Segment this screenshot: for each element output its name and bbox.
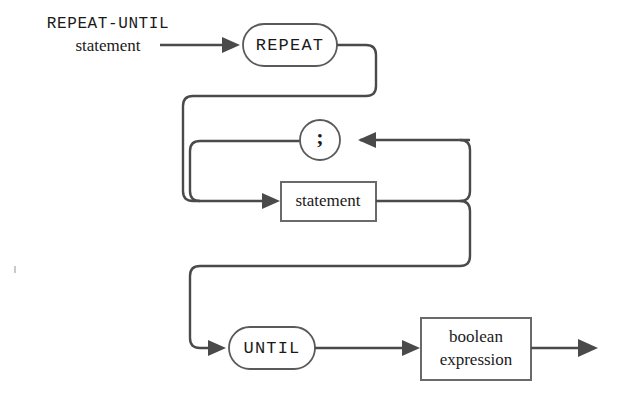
railroad-canvas: REPEAT ; statement UNTIL boolean express… [0, 0, 622, 404]
statement-up-branch-line [460, 140, 470, 201]
semicolon-terminal-label: ; [316, 124, 323, 149]
semicolon-return-arrow-icon [358, 132, 376, 148]
repeat-to-loop-line [183, 45, 376, 201]
boolean-expression-label-line-2: expression [440, 350, 513, 369]
repeat-until-syntax-diagram: REPEAT-UNTIL statement REPEAT ; statemen… [0, 0, 622, 404]
repeat-terminal-label: REPEAT [256, 36, 324, 55]
statement-entry-arrow-icon [262, 193, 280, 209]
until-entry-arrow-icon [208, 340, 226, 356]
statement-nonterminal-label: statement [295, 191, 360, 210]
boolean-expression-label-line-1: boolean [449, 327, 503, 346]
exit-arrow-icon [578, 339, 598, 357]
expression-entry-arrow-icon [402, 340, 420, 356]
until-terminal-label: UNTIL [243, 339, 300, 358]
entry-arrow-icon [222, 37, 240, 53]
